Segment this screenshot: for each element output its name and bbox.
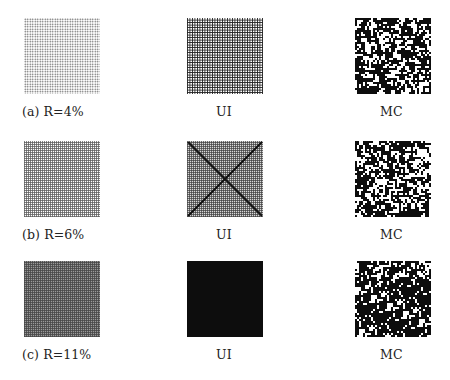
panel-caption: UI [216,104,232,119]
panel-c-ui: UI [150,261,270,380]
mc-speckle-svg [355,141,431,217]
panel-a-mc: MC [300,18,420,138]
panel-caption: UI [216,227,232,242]
ui-checker-grid-image [187,18,263,94]
light-grid-image [24,141,100,217]
panel-c-mc: MC [300,261,420,380]
mc-speckle-image [355,141,431,217]
mc-speckle-image [355,261,431,337]
panel-b-reference: (b) R=6% [0,141,120,261]
panel-caption: (c) R=11% [22,347,91,362]
panel-caption: UI [216,347,232,362]
panel-b-mc: MC [300,141,420,261]
figure: (a) R=4% UI MC (b) R=6% UI [0,0,450,380]
panel-a-ui: UI [150,18,270,138]
mc-speckle-svg [355,18,431,94]
diagonal-cross-overlay [187,141,263,217]
figure-row-b: (b) R=6% UI MC [0,141,450,261]
ui-solid-black-image [187,261,263,337]
panel-caption: MC [380,347,403,362]
panel-caption: MC [380,104,403,119]
panel-b-ui: UI [150,141,270,261]
figure-row-a: (a) R=4% UI MC [0,18,450,138]
mc-speckle-svg [355,261,431,337]
panel-a-reference: (a) R=4% [0,18,120,138]
figure-row-c: (c) R=11% UI MC [0,261,450,380]
mc-speckle-image [355,18,431,94]
sparse-dot-grid-image [24,18,100,94]
ui-grid-cross-image [187,141,263,217]
panel-caption: (a) R=4% [22,104,84,119]
panel-caption: MC [380,227,403,242]
panel-c-reference: (c) R=11% [0,261,120,380]
dense-grid-image [24,261,100,337]
panel-caption: (b) R=6% [22,227,84,242]
